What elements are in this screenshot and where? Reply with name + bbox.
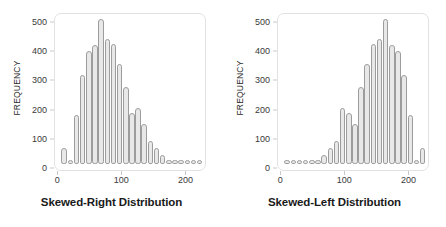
y-tick-label: 500 [255,17,270,27]
histogram-bar [80,75,86,164]
histogram-bar [166,160,172,164]
histogram-bar [92,45,98,164]
x-tick-label: 0 [55,175,60,185]
y-tick-label: 400 [255,46,270,56]
y-axis-ticks: 0100200300400500 [24,16,50,168]
y-tick-label: 200 [32,105,47,115]
histogram-bar [377,39,383,164]
y-tick-label: 400 [32,46,47,56]
histogram-bar [129,113,135,164]
histogram-bar [414,160,420,164]
histogram-bar [371,44,377,164]
y-tick-mark [50,168,54,169]
y-axis-label-text: FREQUENCY [235,60,245,115]
histogram-bar [154,148,160,164]
histogram-bar [389,45,395,164]
histogram-bar [352,124,358,164]
plot-area [277,13,429,171]
x-tick-label: 100 [337,175,352,185]
y-axis-ticks: 0100200300400500 [247,16,273,168]
histogram-bar [297,160,303,164]
histogram-bar [178,160,184,164]
histogram-bar [98,19,104,164]
histogram-bar [61,148,67,164]
histogram-bar [111,44,117,164]
histogram-bar [284,160,290,164]
y-tick-label: 300 [255,75,270,85]
y-tick-label: 500 [32,17,47,27]
histogram-bar [117,64,123,164]
y-tick-label: 200 [255,105,270,115]
panel-title: Skewed-Right Distribution [0,196,223,208]
histogram-bar [135,108,141,164]
histogram-bar [395,51,401,164]
x-tick-label: 200 [401,175,416,185]
panel-skewed-left: FREQUENCY 0100200300400500 0100200 Skewe… [223,0,446,227]
y-tick-label: 100 [32,134,47,144]
histogram-bar [141,124,147,164]
histogram-bar [185,160,191,164]
histogram-bar [408,115,414,164]
x-tick-label: 200 [178,175,193,185]
histogram-bar [105,39,111,164]
plot-area [54,13,206,171]
histogram-bar [420,148,426,164]
histogram-bar [191,160,197,164]
histogram-bar [74,115,80,164]
histogram-bar [340,108,346,164]
histogram-bar [383,19,389,164]
y-tick-label: 100 [255,134,270,144]
x-tick-label: 0 [278,175,283,185]
x-axis-ticks: 0100200 [277,171,429,185]
y-tick-label: 0 [265,163,270,173]
histogram-bar [334,141,340,164]
histogram-bar [172,160,178,164]
bar-series [281,18,425,164]
x-tick-label: 100 [114,175,129,185]
y-tick-label: 300 [32,75,47,85]
histogram-bar [328,148,334,164]
histogram-bar [68,160,74,164]
histogram-bar [401,75,407,164]
histogram-figure: FREQUENCY 0100200300400500 0100200 Skewe… [0,0,446,227]
histogram-bar [321,155,327,164]
histogram-bar [291,160,297,164]
x-axis-ticks: 0100200 [54,171,206,185]
histogram-bar [346,113,352,164]
panel-skewed-right: FREQUENCY 0100200300400500 0100200 Skewe… [0,0,223,227]
histogram-bar [197,160,203,164]
histogram-bar [358,87,364,164]
histogram-bar [309,160,315,164]
y-tick-label: 0 [42,163,47,173]
y-axis-label-text: FREQUENCY [12,60,22,115]
bar-series [58,18,202,164]
histogram-bar [303,160,309,164]
histogram-bar [315,160,321,164]
panel-title: Skewed-Left Distribution [223,196,446,208]
histogram-bar [86,51,92,164]
histogram-bar [160,155,166,164]
histogram-bar [148,141,154,164]
histogram-bar [364,64,370,164]
y-tick-mark [273,168,277,169]
histogram-bar [123,87,129,164]
